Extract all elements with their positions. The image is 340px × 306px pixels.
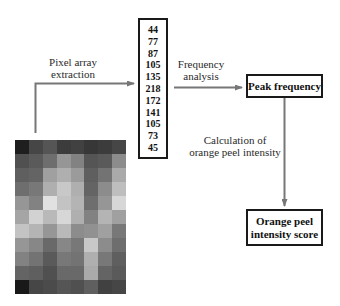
pixel-cell	[84, 196, 98, 210]
pixel-cell	[43, 210, 57, 224]
pixel-cell	[57, 140, 71, 154]
pixel-cell	[112, 266, 126, 280]
frequency-analysis-label: Frequency analysis	[172, 58, 230, 82]
pixel-cell	[71, 182, 85, 196]
pixel-cell	[98, 224, 112, 238]
pixel-cell	[29, 140, 43, 154]
pixel-cell	[71, 266, 85, 280]
pixel-cell	[29, 196, 43, 210]
extraction-arrow	[36, 84, 135, 134]
pixel-cell	[43, 168, 57, 182]
pixel-cell	[15, 238, 29, 252]
pixel-grid-image	[15, 140, 126, 294]
pixel-cell	[71, 280, 85, 294]
pixel-cell	[57, 224, 71, 238]
pixel-cell	[84, 140, 98, 154]
pixel-cell	[71, 168, 85, 182]
pixel-cell	[57, 238, 71, 252]
pixel-cell	[84, 252, 98, 266]
pixel-cell	[112, 196, 126, 210]
pixel-cell	[29, 252, 43, 266]
pixel-cell	[43, 266, 57, 280]
pixel-cell	[112, 140, 126, 154]
pixel-cell	[57, 182, 71, 196]
pixel-cell	[98, 196, 112, 210]
pixel-cell	[71, 140, 85, 154]
pixel-cell	[84, 280, 98, 294]
pixel-cell	[112, 252, 126, 266]
pixel-cell	[57, 252, 71, 266]
pixel-cell	[84, 154, 98, 168]
pixel-cell	[43, 154, 57, 168]
pixel-cell	[29, 238, 43, 252]
pixel-value: 77	[148, 36, 158, 48]
pixel-cell	[43, 182, 57, 196]
pixel-cell	[29, 182, 43, 196]
calculation-label: Calculation of orange peel intensity	[186, 134, 284, 158]
pixel-cell	[57, 154, 71, 168]
pixel-value: 105	[146, 59, 161, 71]
pixel-cell	[29, 210, 43, 224]
pixel-cell	[29, 224, 43, 238]
pixel-cell	[43, 224, 57, 238]
pixel-cell	[98, 252, 112, 266]
pixel-cell	[29, 154, 43, 168]
calculation-label-line2: orange peel intensity	[186, 146, 284, 158]
pixel-cell	[15, 168, 29, 182]
pixel-cell	[84, 224, 98, 238]
pixel-cell	[84, 182, 98, 196]
pixel-cell	[84, 168, 98, 182]
pixel-value: 105	[146, 118, 161, 130]
pixel-cell	[15, 224, 29, 238]
pixel-cell	[15, 280, 29, 294]
pixel-cell	[15, 140, 29, 154]
pixel-cell	[43, 140, 57, 154]
pixel-cell	[15, 154, 29, 168]
pixel-cell	[15, 196, 29, 210]
pixel-array-label-line1: Pixel array	[42, 56, 104, 68]
pixel-cell	[112, 238, 126, 252]
pixel-value: 218	[146, 83, 161, 95]
pixel-cell	[71, 238, 85, 252]
pixel-cell	[29, 280, 43, 294]
pixel-cell	[71, 196, 85, 210]
pixel-cell	[98, 210, 112, 224]
pixel-cell	[98, 238, 112, 252]
frequency-label-line1: Frequency	[172, 58, 230, 70]
pixel-cell	[43, 196, 57, 210]
pixel-value: 172	[146, 95, 161, 107]
pixel-cell	[71, 252, 85, 266]
pixel-cell	[15, 210, 29, 224]
pixel-cell	[57, 280, 71, 294]
pixel-cell	[29, 168, 43, 182]
pixel-cell	[98, 154, 112, 168]
peak-frequency-label: Peak frequency	[248, 80, 321, 93]
pixel-cell	[112, 210, 126, 224]
pixel-value: 44	[148, 24, 158, 36]
pixel-cell	[43, 238, 57, 252]
pixel-cell	[43, 252, 57, 266]
score-label-line1: Orange peel	[256, 215, 313, 228]
pixel-cell	[57, 210, 71, 224]
pixel-cell	[112, 224, 126, 238]
pixel-value: 141	[146, 107, 161, 119]
peak-frequency-box: Peak frequency	[246, 74, 323, 98]
pixel-value: 87	[148, 48, 158, 60]
pixel-value: 73	[148, 130, 158, 142]
pixel-cell	[57, 168, 71, 182]
orange-peel-score-box: Orange peel intensity score	[246, 209, 323, 246]
pixel-cell	[84, 266, 98, 280]
pixel-cell	[71, 224, 85, 238]
pixel-cell	[57, 266, 71, 280]
score-label-line2: intensity score	[251, 228, 318, 241]
pixel-cell	[112, 182, 126, 196]
pixel-value: 45	[148, 142, 158, 154]
pixel-cell	[15, 182, 29, 196]
calculation-label-line1: Calculation of	[186, 134, 284, 146]
pixel-cell	[29, 266, 43, 280]
pixel-cell	[57, 196, 71, 210]
pixel-cell	[98, 280, 112, 294]
pixel-cell	[98, 140, 112, 154]
pixel-cell	[98, 182, 112, 196]
pixel-cell	[43, 280, 57, 294]
